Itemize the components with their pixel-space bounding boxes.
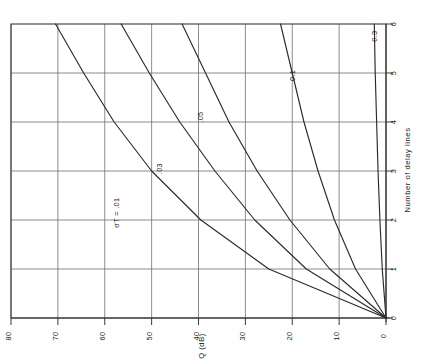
curve-label-sigma-t-05: .05 bbox=[196, 112, 205, 123]
y-tick-label: 80 bbox=[4, 332, 13, 341]
chart-figure: 010203040506070800123456 σT = .01.03.050… bbox=[0, 0, 423, 362]
y-tick-label: 60 bbox=[98, 332, 107, 341]
curve-label-sigma-t-0-1: 0.1 bbox=[288, 70, 297, 81]
y-tick-label: 10 bbox=[332, 332, 341, 341]
curve-label-sigma-t-0-3: 0.3 bbox=[370, 31, 379, 42]
y-axis-title: Q (dB) bbox=[197, 333, 206, 359]
curve-label-sigma-t-03: .03 bbox=[155, 163, 164, 174]
y-tick-label: 70 bbox=[51, 332, 60, 341]
y-axis-title-group: Q (dB) bbox=[197, 333, 206, 359]
curve-label-sigma-t-01: σT = .01 bbox=[112, 198, 121, 228]
x-tick-label: 1 bbox=[389, 267, 398, 271]
y-tick-label: 0 bbox=[379, 334, 388, 338]
y-tick-label: 50 bbox=[145, 332, 154, 341]
x-tick-label: 2 bbox=[389, 218, 398, 222]
y-tick-label: 30 bbox=[238, 332, 247, 341]
x-tick-label: 3 bbox=[389, 169, 398, 173]
x-tick-label: 0 bbox=[389, 316, 398, 320]
x-tick-label: 4 bbox=[389, 120, 398, 124]
x-axis-title: Number of delay lines bbox=[403, 128, 412, 213]
chart-svg: 010203040506070800123456 σT = .01.03.050… bbox=[0, 0, 423, 362]
y-tick-label: 20 bbox=[285, 332, 294, 341]
x-tick-label: 5 bbox=[389, 71, 398, 75]
x-tick-label: 6 bbox=[389, 22, 398, 26]
